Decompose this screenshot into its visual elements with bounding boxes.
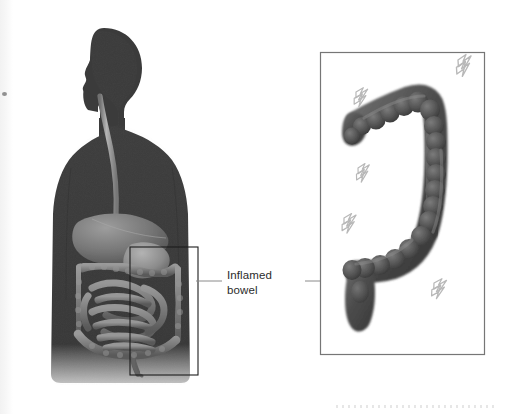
- descending-colon: [176, 270, 180, 340]
- anatomy-figure: [0, 0, 507, 414]
- scan-bottom-dots: [336, 405, 496, 408]
- inflamed-bowel-inset: [321, 53, 485, 355]
- illustration-page: Inflamed bowel: [0, 0, 507, 414]
